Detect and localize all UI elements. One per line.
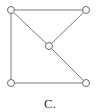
edge-top-right-center [49,10,86,46]
node-top-left [8,7,15,14]
node-bottom-right [83,80,90,87]
edge-center-bottom-right [49,46,86,83]
node-center [46,43,53,50]
diagram-caption: C. [0,97,100,111]
node-bottom-left [8,80,15,87]
edge-top-left-center [11,10,49,46]
node-top-right [83,7,90,14]
